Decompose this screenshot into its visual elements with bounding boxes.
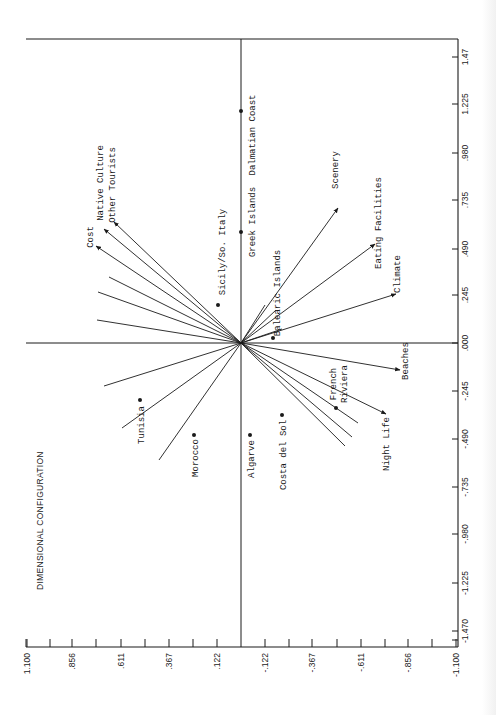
- vector-label: Cost: [86, 226, 96, 248]
- bottom-axis-tick-label: -.122: [260, 653, 270, 673]
- vector-label: Other Tourists: [108, 147, 118, 223]
- right-axis-tick-label: .490: [460, 240, 470, 257]
- point-label: French: [329, 368, 339, 400]
- destination-points: Dalmatian CoastGreek IslandsSicily/So. I…: [137, 94, 350, 490]
- point-label: Dalmatian Coast: [248, 94, 258, 175]
- right-axis-tick-label: -1.225: [460, 571, 470, 595]
- vector-night-life: [241, 343, 386, 414]
- vector-climate: [241, 294, 396, 343]
- point-label: Morocco: [191, 439, 201, 477]
- right-axis-ticks: 1.471.225.980.735.490.245.000-.245-.490-…: [452, 48, 470, 643]
- vector-label: Eating Facilities: [374, 177, 384, 269]
- point-label: Riviera: [340, 365, 350, 403]
- unlabeled-vector: [98, 292, 241, 343]
- right-axis-tick-label: -.980: [460, 524, 470, 544]
- point-marker: [239, 230, 243, 234]
- vector-beaches: [241, 343, 400, 370]
- right-axis-tick-label: -.735: [460, 477, 470, 497]
- bottom-axis-tick-label: -.367: [307, 653, 317, 673]
- vector-label: Night Life: [382, 417, 392, 471]
- right-axis-tick-label: .980: [460, 144, 470, 161]
- right-axis-tick-label: 1.47: [460, 48, 470, 65]
- point-marker: [216, 303, 220, 307]
- point-label: Greek Islands: [248, 187, 258, 257]
- bottom-axis-tick-label: .856: [67, 653, 77, 670]
- vector-label: Native Culture: [96, 145, 106, 221]
- right-axis-tick-label: -.490: [460, 429, 470, 449]
- chart-title: DIMENSIONAL CONFIGURATION: [35, 451, 45, 590]
- unlabeled-vector: [104, 343, 241, 386]
- point-marker: [239, 109, 243, 113]
- point-marker: [334, 406, 338, 410]
- right-axis-tick-label: -.245: [460, 381, 470, 401]
- bottom-axis-tick-label: .122: [212, 653, 222, 670]
- point-marker: [248, 433, 252, 437]
- unlabeled-vector: [97, 320, 241, 343]
- vector-label: Beaches: [401, 342, 411, 380]
- point-marker: [280, 413, 284, 417]
- point-label: Algarve: [247, 440, 257, 478]
- point-label: Tunisia: [137, 406, 147, 444]
- right-axis-tick-label: 1.225: [460, 93, 470, 115]
- point-label: Balearic Islands: [273, 250, 283, 336]
- vector-eating-facilities: [241, 244, 375, 343]
- bottom-axis-tick-label: .611: [116, 653, 126, 669]
- vector-label: Climate: [393, 255, 403, 293]
- point-label: Costa del Sol: [279, 420, 289, 490]
- bottom-axis-tick-label: 1.100: [22, 653, 32, 675]
- point-label: Sicily/So. Italy: [218, 208, 228, 295]
- page-edge-shadow: [482, 0, 496, 715]
- vector-label: Scenery: [331, 151, 341, 189]
- right-axis-tick-label: .000: [460, 334, 470, 351]
- bottom-axis-tick-label: -.856: [403, 653, 413, 673]
- point-marker: [192, 433, 196, 437]
- bottom-axis-tick-label: .367: [164, 653, 174, 670]
- right-axis-tick-label: .245: [460, 286, 470, 303]
- right-axis-tick-label: -1.470: [460, 619, 470, 643]
- bottom-axis-tick-label: -.611: [356, 653, 366, 672]
- point-marker: [138, 398, 142, 402]
- right-axis-tick-label: .735: [460, 191, 470, 208]
- dimensional-configuration-chart: 1.471.225.980.735.490.245.000-.245-.490-…: [0, 0, 496, 715]
- bottom-axis-tick-label: -1.100: [451, 653, 461, 677]
